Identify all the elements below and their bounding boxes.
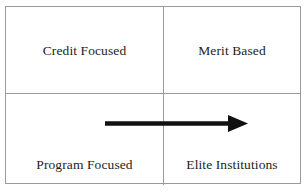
quadrant-top-right-label: Merit Based <box>198 43 265 58</box>
quadrant-top-left-label: Credit Focused <box>43 43 127 58</box>
quadrant-top-left: Credit Focused <box>6 7 163 93</box>
quadrant-bottom-left-label: Program Focused <box>36 157 132 172</box>
quadrant-bottom-right-label: Elite Institutions <box>186 157 277 172</box>
quadrant-top-right: Merit Based <box>164 7 300 93</box>
quadrant-bottom-left: Program Focused <box>6 94 163 184</box>
matrix-diagram: Credit Focused Merit Based Program Focus… <box>0 0 307 193</box>
matrix-frame: Credit Focused Merit Based Program Focus… <box>5 6 301 184</box>
quadrant-bottom-right: Elite Institutions <box>164 94 300 184</box>
